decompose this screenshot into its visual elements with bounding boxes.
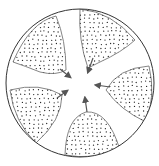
lobe-outline xyxy=(10,87,62,143)
arrow-right xyxy=(96,85,110,87)
lobed-circle-diagram xyxy=(0,0,159,166)
lobes xyxy=(1,1,159,166)
lobe-outline xyxy=(106,66,152,122)
arrows xyxy=(57,58,110,112)
lobe-outline xyxy=(80,9,135,68)
arrow-bottom xyxy=(85,98,87,112)
